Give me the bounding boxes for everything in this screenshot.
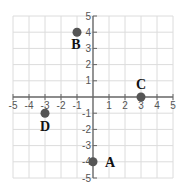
x-tick-label: 2 [122, 100, 128, 111]
y-tick-label: -2 [82, 124, 91, 135]
point-label-c: C [136, 77, 146, 92]
point-a [89, 157, 98, 166]
x-tick-label: -2 [57, 100, 66, 111]
coordinate-plane: -5-4-3-2-112345-5-4-3-2-112345 ABCD [0, 0, 184, 192]
y-tick-label: 4 [85, 27, 91, 38]
x-tick-label: 3 [138, 100, 144, 111]
x-tick-label: 1 [106, 100, 112, 111]
point-label-a: A [105, 155, 116, 170]
x-tick-label: 4 [154, 100, 160, 111]
x-tick-label: -4 [25, 100, 34, 111]
y-tick-label: -3 [82, 140, 91, 151]
y-tick-label: 1 [85, 75, 91, 86]
y-tick-label: 2 [85, 59, 91, 70]
point-b [73, 28, 82, 37]
point-c [137, 93, 146, 102]
x-tick-label: 5 [170, 100, 176, 111]
axes [13, 16, 173, 178]
y-tick-label: -1 [82, 108, 91, 119]
y-tick-label: -5 [82, 173, 91, 184]
y-tick-label: 3 [85, 43, 91, 54]
x-tick-label: -1 [73, 100, 82, 111]
x-tick-label: -5 [9, 100, 18, 111]
point-d [41, 109, 50, 118]
point-label-b: B [71, 37, 80, 52]
y-tick-label: 5 [85, 11, 91, 22]
point-label-d: D [40, 119, 50, 134]
